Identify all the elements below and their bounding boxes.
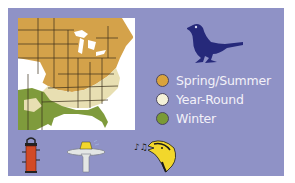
legend-label: Year-Round	[176, 92, 244, 107]
range-map-graphic	[18, 18, 135, 130]
legend-item-year-round: Year-Round	[156, 90, 271, 109]
year-round-swatch	[156, 93, 169, 106]
tube-feeder-icon	[22, 136, 40, 174]
bird-silhouette-icon	[183, 20, 245, 66]
svg-text:♪♫: ♪♫	[134, 142, 148, 152]
spring-summer-swatch	[156, 74, 169, 87]
range-card: Spring/Summer Year-Round Winter ♪♫	[8, 8, 284, 176]
birdbath-icon	[66, 140, 106, 174]
range-map	[18, 18, 135, 130]
legend-item-spring-summer: Spring/Summer	[156, 71, 271, 90]
winter-swatch	[156, 112, 169, 125]
legend-label: Spring/Summer	[176, 73, 271, 88]
legend-item-winter: Winter	[156, 109, 271, 128]
legend: Spring/Summer Year-Round Winter	[156, 71, 271, 128]
legend-label: Winter	[176, 111, 216, 126]
song-icon: ♪♫	[134, 138, 180, 174]
